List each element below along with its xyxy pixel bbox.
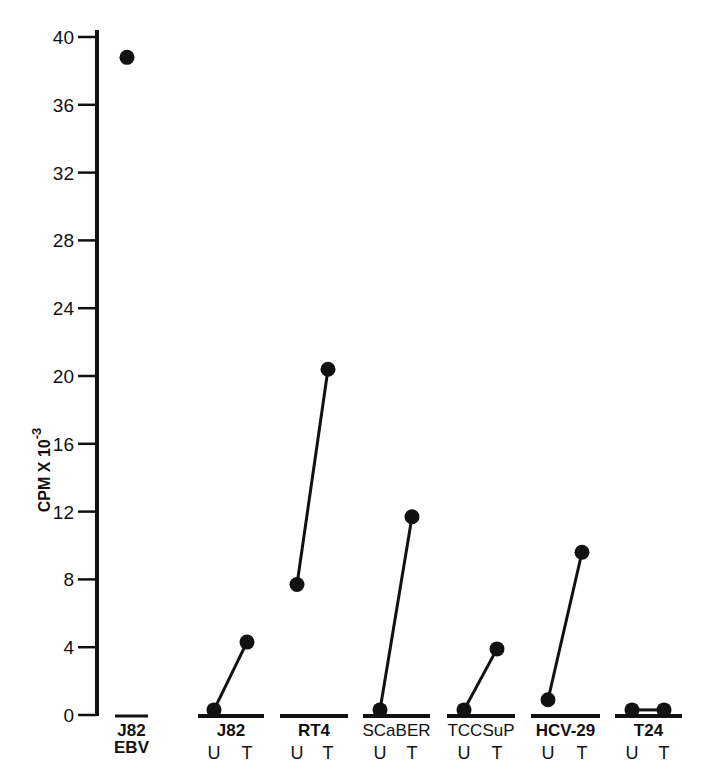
connector-line xyxy=(380,517,412,710)
data-point-t xyxy=(405,509,420,524)
y-axis-label-text: CPM X 10-3 xyxy=(29,428,53,512)
data-point-u xyxy=(290,577,305,592)
group-hcv-29: HCV-29UT xyxy=(531,545,600,763)
y-tick-label: 24 xyxy=(53,298,75,319)
data-point-ebv xyxy=(120,50,135,65)
data-point-u xyxy=(541,692,556,707)
group-label: J82 xyxy=(217,721,245,740)
group-j82: J82UT xyxy=(198,635,264,763)
data-point-t xyxy=(575,545,590,560)
y-axis-label: CPM X 10-3 xyxy=(29,428,53,512)
group-rt4: RT4UT xyxy=(280,362,348,763)
condition-label-u: U xyxy=(458,743,471,763)
y-tick-label: 4 xyxy=(63,637,74,658)
condition-label-u: U xyxy=(374,743,387,763)
group-sublabel: EBV xyxy=(114,738,150,757)
y-tick-label: 40 xyxy=(53,27,74,48)
y-tick-label: 28 xyxy=(53,230,74,251)
group-label: HCV-29 xyxy=(536,721,596,740)
condition-label-t: T xyxy=(242,743,253,763)
group-j82-ebv: J82EBV xyxy=(114,50,150,757)
data-point-t xyxy=(321,362,336,377)
group-label: TCCSuP xyxy=(447,721,514,740)
y-tick-label: 12 xyxy=(53,502,74,523)
condition-label-u: U xyxy=(208,743,221,763)
data-point-u xyxy=(457,702,472,717)
data-point-t xyxy=(240,635,255,650)
group-label: RT4 xyxy=(298,721,331,740)
condition-label-t: T xyxy=(577,743,588,763)
condition-label-u: U xyxy=(542,743,555,763)
y-ticks: 0481216202428323640 xyxy=(53,27,97,726)
data-groups: J82EBVJ82UTRT4UTSCaBERUTTCCSuPUTHCV-29UT… xyxy=(114,50,682,763)
connector-line xyxy=(464,649,497,710)
y-tick-label: 8 xyxy=(63,569,74,590)
condition-label-t: T xyxy=(323,743,334,763)
connector-line xyxy=(297,369,328,584)
condition-label-t: T xyxy=(659,743,670,763)
condition-label-t: T xyxy=(492,743,503,763)
condition-label-t: T xyxy=(407,743,418,763)
y-tick-label: 32 xyxy=(53,163,74,184)
data-point-u xyxy=(373,702,388,717)
group-label: T24 xyxy=(634,721,664,740)
y-axis: 0481216202428323640 xyxy=(53,27,97,726)
y-tick-label: 36 xyxy=(53,95,74,116)
connector-line xyxy=(214,642,247,710)
group-t24: T24UT xyxy=(615,702,682,763)
cpm-chart: 0481216202428323640 CPM X 10-3 J82EBVJ82… xyxy=(0,0,711,779)
group-tccsup: TCCSuPUT xyxy=(447,641,515,763)
y-tick-label: 20 xyxy=(53,366,74,387)
y-tick-label: 16 xyxy=(53,434,74,455)
data-point-t xyxy=(490,641,505,656)
data-point-t xyxy=(657,702,672,717)
condition-label-u: U xyxy=(291,743,304,763)
group-label: SCaBER xyxy=(362,721,430,740)
connector-line xyxy=(548,552,582,699)
group-scaber: SCaBERUT xyxy=(362,509,430,763)
condition-label-u: U xyxy=(626,743,639,763)
data-point-u xyxy=(625,702,640,717)
y-tick-label: 0 xyxy=(63,705,74,726)
data-point-u xyxy=(207,702,222,717)
